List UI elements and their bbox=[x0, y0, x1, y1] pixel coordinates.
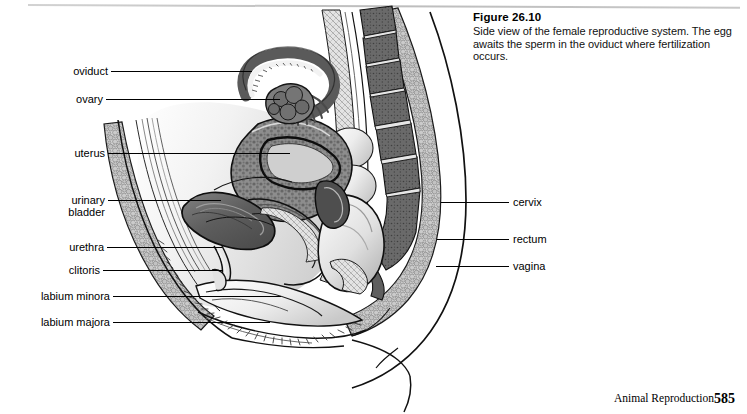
figure-caption-line2: awaits the sperm in the oviduct where fe… bbox=[473, 38, 710, 63]
label-rectum-text: rectum bbox=[513, 233, 547, 245]
label-oviduct-text: oviduct bbox=[73, 65, 108, 77]
leader-line-ovary bbox=[106, 99, 280, 100]
label-vagina: vagina bbox=[513, 260, 545, 272]
label-urinary-bladder-line2: bladder bbox=[10, 206, 105, 218]
label-clitoris: clitoris bbox=[10, 264, 100, 276]
figure-page: oviduct ovary uterus urinary bladder ure… bbox=[0, 0, 747, 414]
label-urinary-bladder-line1: urinary bbox=[10, 194, 105, 206]
figure-caption-block: Figure 26.10 Side view of the female rep… bbox=[473, 10, 741, 63]
leader-line-urethra bbox=[107, 247, 222, 248]
leader-line-labium-majora bbox=[113, 322, 270, 323]
label-uterus-text: uterus bbox=[74, 147, 105, 159]
label-clitoris-text: clitoris bbox=[69, 264, 100, 276]
label-urethra: urethra bbox=[10, 241, 104, 253]
leader-line-clitoris bbox=[103, 270, 223, 271]
label-ovary: ovary bbox=[10, 93, 103, 105]
label-cervix: cervix bbox=[513, 196, 542, 208]
leader-line-cervix bbox=[441, 202, 509, 203]
label-labium-majora: labium majora bbox=[4, 316, 110, 328]
label-labium-minora: labium minora bbox=[4, 290, 110, 302]
label-urinary-bladder: urinary bladder bbox=[10, 194, 105, 218]
figure-caption-line1: Side view of the female reproductive sys… bbox=[473, 25, 732, 37]
leader-line-oviduct bbox=[111, 71, 252, 72]
leader-line-uterus bbox=[108, 153, 290, 154]
label-urethra-text: urethra bbox=[69, 241, 104, 253]
footer-page-number: 585 bbox=[714, 391, 735, 407]
label-uterus: uterus bbox=[10, 147, 105, 159]
footer-chapter-title: Animal Reproduction bbox=[614, 392, 714, 404]
page-footer: Animal Reproduction 585 bbox=[0, 392, 747, 414]
label-labium-majora-text: labium majora bbox=[41, 316, 110, 328]
label-rectum: rectum bbox=[513, 233, 547, 245]
figure-number: Figure 26.10 bbox=[473, 10, 741, 24]
label-vagina-text: vagina bbox=[513, 260, 545, 272]
gluteal-fold bbox=[352, 340, 410, 376]
label-labium-minora-text: labium minora bbox=[41, 290, 110, 302]
leader-line-labium-minora bbox=[113, 296, 281, 297]
label-oviduct: oviduct bbox=[10, 65, 108, 77]
figure-caption-text: Side view of the female reproductive sys… bbox=[473, 25, 741, 63]
label-ovary-text: ovary bbox=[76, 93, 103, 105]
leader-line-urinary-bladder bbox=[108, 200, 221, 201]
leader-line-rectum bbox=[437, 239, 509, 240]
leader-line-vagina bbox=[436, 266, 509, 267]
ovary bbox=[266, 84, 314, 124]
label-cervix-text: cervix bbox=[513, 196, 542, 208]
